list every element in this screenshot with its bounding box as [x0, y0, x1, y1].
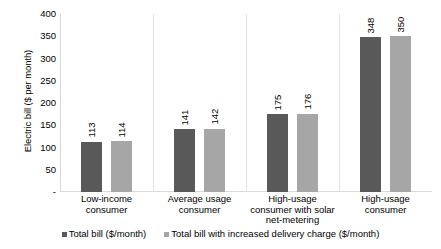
bar-group: 348350 [339, 14, 432, 192]
bar[interactable] [111, 141, 132, 192]
legend-label: Total bill ($/month) [69, 229, 147, 239]
bar[interactable] [297, 114, 318, 192]
bar[interactable] [267, 114, 288, 192]
legend-item[interactable]: Total bill ($/month) [62, 229, 147, 239]
bar-item[interactable]: 348 [360, 14, 381, 192]
bar-item[interactable]: 350 [390, 14, 411, 192]
bar-item[interactable]: 175 [267, 14, 288, 192]
bar-item[interactable]: 142 [204, 14, 225, 192]
bar-group: 175176 [246, 14, 339, 192]
bar-item[interactable]: 114 [111, 14, 132, 192]
bar-item[interactable]: 113 [81, 14, 102, 192]
bar-value-label: 141 [180, 109, 190, 125]
legend-swatch [62, 232, 67, 237]
legend-item[interactable]: Total bill with increased delivery charg… [164, 229, 379, 239]
bar-value-label: 175 [273, 94, 283, 110]
chart-legend: Total bill ($/month)Total bill with incr… [0, 229, 441, 239]
plot-area: 40035030025020015010050- 113114141142175… [60, 14, 432, 192]
y-axis-tick-label: 350 [16, 32, 56, 42]
y-axis-tick-label: - [16, 187, 56, 197]
y-axis-tick-label: 200 [16, 98, 56, 108]
bar-item[interactable]: 141 [174, 14, 195, 192]
bar-group: 113114 [60, 14, 153, 192]
bar-value-label: 114 [117, 122, 127, 137]
bar[interactable] [81, 142, 102, 192]
bar-item[interactable]: 176 [297, 14, 318, 192]
bar-value-label: 142 [210, 109, 220, 125]
y-axis-tick-label: 400 [16, 9, 56, 19]
y-axis-tick-label: 250 [16, 76, 56, 86]
bar[interactable] [174, 129, 195, 192]
bar-value-label: 350 [396, 16, 406, 32]
x-axis-category-label: High-usage consumer [339, 194, 432, 226]
bar[interactable] [360, 37, 381, 192]
bar[interactable] [204, 129, 225, 192]
y-axis-tick-label: 100 [16, 143, 56, 153]
y-axis-tick-label: 300 [16, 54, 56, 64]
bar[interactable] [390, 36, 411, 192]
bar-value-label: 176 [303, 94, 313, 110]
x-axis-category-labels: Low-income consumerAverage usage consume… [60, 194, 432, 226]
y-axis-tick-label: 50 [16, 165, 56, 175]
y-axis-tick-label: 150 [16, 121, 56, 131]
bar-groups: 113114141142175176348350 [60, 14, 432, 192]
x-axis-category-label: Low-income consumer [60, 194, 153, 226]
bar-group: 141142 [153, 14, 246, 192]
legend-label: Total bill with increased delivery charg… [171, 229, 379, 239]
x-axis-category-label: Average usage consumer [153, 194, 246, 226]
legend-swatch [164, 232, 169, 237]
bar-value-label: 113 [87, 123, 97, 138]
bar-chart: Electric bill ($ per month) 400350300250… [0, 0, 441, 249]
bar-value-label: 348 [366, 17, 376, 33]
x-axis-category-label: High-usage consumer with solar net-meter… [246, 194, 339, 226]
